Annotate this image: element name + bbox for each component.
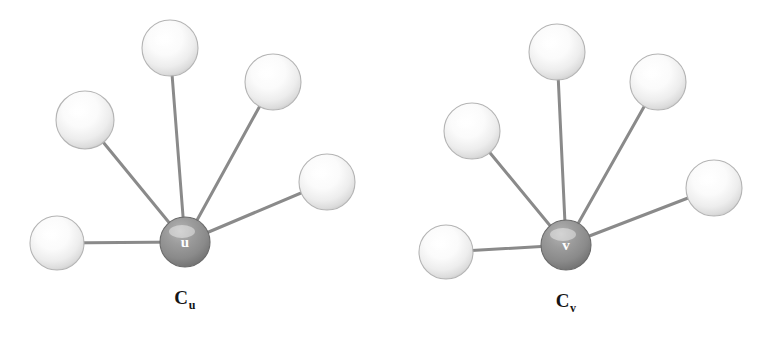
molecule-scene: uv [0, 0, 768, 341]
figure-canvas: uv CuCv [0, 0, 768, 341]
atom-sphere [686, 160, 742, 216]
bond-cluster-v-neighbor-top [557, 52, 566, 245]
bond-layer [57, 48, 714, 252]
atom-cluster-u-neighbor-right [299, 154, 355, 210]
atom-sphere [56, 91, 114, 149]
atom-sphere [444, 103, 500, 159]
atom-cluster-v-neighbor-right [686, 160, 742, 216]
caption-cluster-u: Cu [174, 287, 195, 313]
bond-cluster-u-neighbor-top [170, 48, 185, 242]
caption-base: C [556, 290, 570, 311]
atom-sphere [299, 154, 355, 210]
caption-subscript: v [570, 301, 577, 315]
atom-cluster-u-center: u [160, 217, 210, 267]
atom-highlight [695, 170, 721, 189]
caption-base: C [174, 287, 188, 308]
atom-sphere [30, 216, 84, 270]
atom-highlight [538, 34, 564, 53]
center-atom-label: u [181, 234, 189, 250]
atom-sphere [245, 54, 301, 110]
atom-highlight [639, 64, 665, 83]
atom-cluster-v-center: v [541, 220, 591, 270]
atom-cluster-v-neighbor-left [419, 225, 473, 279]
atom-highlight [151, 30, 177, 49]
atom-highlight [65, 101, 92, 121]
atom-cluster-v-neighbor-top [529, 24, 585, 80]
caption-subscript: u [188, 298, 195, 312]
atom-cluster-v-neighbor-upper-left [444, 103, 500, 159]
atom-sphere [142, 20, 198, 76]
atom-cluster-u-neighbor-left [30, 216, 84, 270]
atom-cluster-u-neighbor-upper-right [245, 54, 301, 110]
atom-highlight [254, 64, 280, 83]
atom-highlight [453, 113, 479, 132]
atom-highlight [308, 164, 334, 183]
atom-cluster-v-neighbor-upper-right [630, 54, 686, 110]
atom-sphere [630, 54, 686, 110]
atom-sphere [419, 225, 473, 279]
atom-cluster-u-neighbor-top [142, 20, 198, 76]
atom-highlight [39, 226, 64, 244]
atom-layer: uv [30, 20, 742, 279]
atom-sphere [529, 24, 585, 80]
atom-highlight [428, 235, 453, 253]
center-atom-label: v [562, 237, 570, 253]
atom-cluster-u-neighbor-upper-left [56, 91, 114, 149]
caption-cluster-v: Cv [556, 290, 577, 316]
